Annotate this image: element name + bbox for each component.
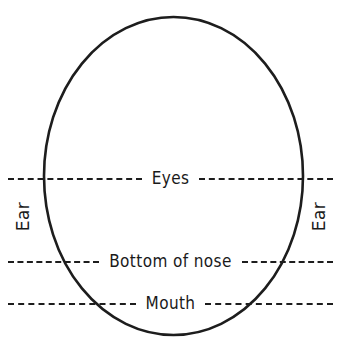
label-ear-right: Ear bbox=[311, 198, 328, 236]
dash-segment-left bbox=[8, 178, 142, 180]
face-proportion-diagram: Eyes Bottom of nose Mouth Ear Ear bbox=[0, 0, 341, 358]
guide-label-nose: Bottom of nose bbox=[106, 253, 235, 270]
dash-segment-left bbox=[8, 303, 136, 305]
dash-segment-right bbox=[205, 303, 333, 305]
guide-line-nose: Bottom of nose bbox=[8, 253, 333, 270]
guide-label-mouth: Mouth bbox=[143, 295, 199, 312]
guide-line-mouth: Mouth bbox=[8, 295, 333, 312]
dash-segment-left bbox=[8, 261, 99, 263]
guide-line-eyes: Eyes bbox=[8, 170, 333, 187]
guide-label-eyes: Eyes bbox=[149, 170, 193, 187]
label-ear-left: Ear bbox=[15, 198, 32, 236]
dash-segment-right bbox=[199, 178, 333, 180]
dash-segment-right bbox=[242, 261, 333, 263]
